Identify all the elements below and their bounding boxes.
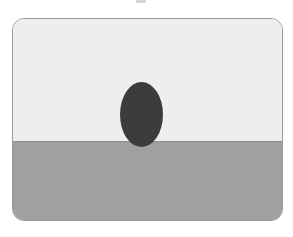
- lower-region: [13, 141, 282, 220]
- cropped-text-fragment: [136, 0, 146, 3]
- image-card: [12, 18, 283, 221]
- dark-oval: [120, 82, 163, 147]
